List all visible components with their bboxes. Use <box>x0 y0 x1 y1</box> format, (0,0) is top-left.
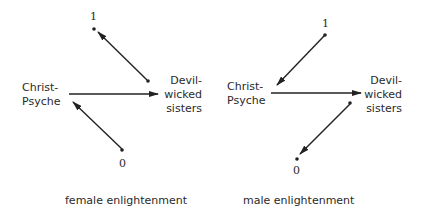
label-line: Christ- <box>227 80 265 94</box>
diagram-caption: male enlightenment <box>243 194 354 207</box>
bottom-value-label: 0 <box>293 164 300 177</box>
christ-psyche-label: Christ- Psyche <box>22 81 60 109</box>
bottom-value-label: 0 <box>119 157 126 170</box>
label-line: sisters <box>160 102 202 116</box>
node-dot-one <box>323 33 327 37</box>
label-line: Psyche <box>22 95 60 109</box>
node-dot-one <box>92 27 96 31</box>
edge-zero-to-christ <box>73 102 122 149</box>
label-line: wicked <box>160 88 202 102</box>
devil-wicked-sisters-label: Devil- wicked sisters <box>360 74 402 116</box>
label-line: Devil- <box>360 74 402 88</box>
label-line: sisters <box>360 102 402 116</box>
node-dot-zero <box>295 157 299 161</box>
top-value-label: 1 <box>90 10 97 23</box>
christ-psyche-label: Christ- Psyche <box>227 80 265 108</box>
devil-wicked-sisters-label: Devil- wicked sisters <box>160 74 202 116</box>
diagram-caption: female enlightenment <box>65 194 187 207</box>
node-dot-devil <box>348 101 352 105</box>
node-dot-devil <box>146 79 150 83</box>
label-line: Psyche <box>227 94 265 108</box>
node-dot-zero <box>120 148 124 152</box>
edge-one-to-christ <box>277 35 325 85</box>
label-line: Devil- <box>160 74 202 88</box>
edge-devil-to-one <box>98 32 147 80</box>
edge-devil-to-zero <box>300 104 350 154</box>
label-line: wicked <box>360 88 402 102</box>
label-line: Christ- <box>22 81 60 95</box>
top-value-label: 1 <box>322 17 329 30</box>
